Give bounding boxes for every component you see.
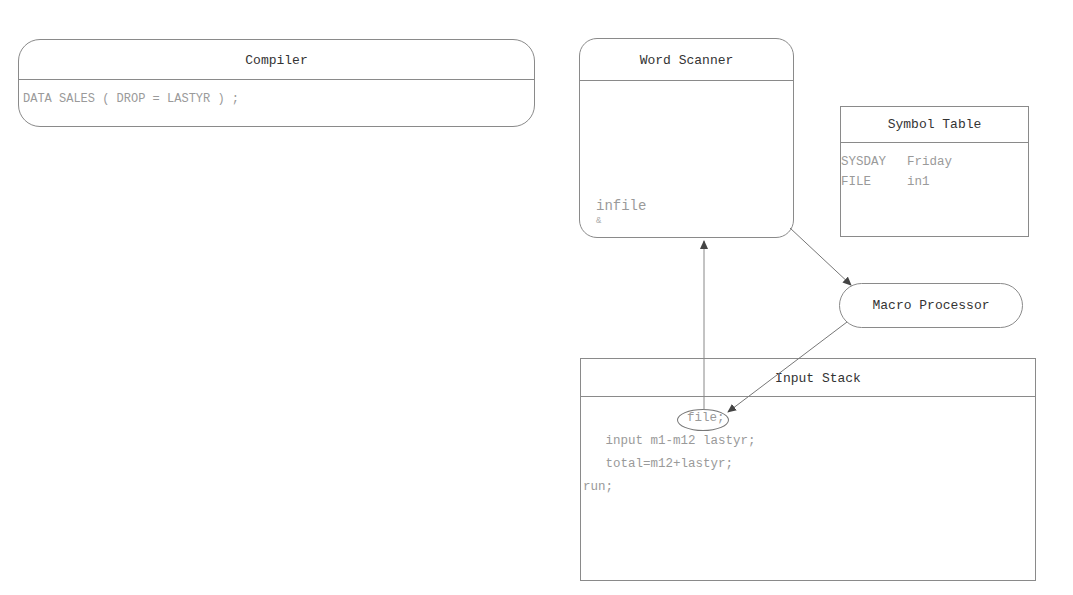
- flow-arrows: [0, 0, 1073, 595]
- arrow-scanner-to-macro: [790, 228, 851, 285]
- arrow-macro-to-stack: [728, 322, 847, 412]
